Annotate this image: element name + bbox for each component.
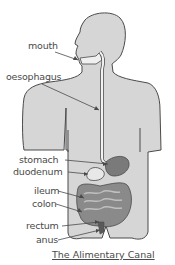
duodenum-organ xyxy=(87,168,105,181)
label-colon: colon xyxy=(32,199,57,209)
label-rectum: rectum xyxy=(26,221,59,231)
label-duodenum: duodenum xyxy=(13,167,62,177)
label-oesophagus: oesophagus xyxy=(6,72,61,82)
label-stomach: stomach xyxy=(19,155,58,165)
diagram-title: The Alimentary Canal xyxy=(52,250,155,260)
label-anus: anus xyxy=(36,235,58,245)
label-mouth: mouth xyxy=(28,41,58,51)
label-ileum: ileum xyxy=(34,186,59,196)
intestines-organ xyxy=(77,183,132,227)
